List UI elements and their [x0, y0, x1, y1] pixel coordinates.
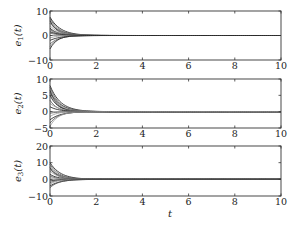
subplot-2: 0246810−50510e2(t)	[12, 74, 287, 140]
subplot-1: 0246810−10010e1(t)	[12, 6, 287, 72]
x-tick-label: 10	[275, 196, 287, 207]
trajectory-line	[50, 171, 281, 179]
trajectory-line	[50, 28, 281, 35]
trajectories	[50, 163, 281, 188]
trajectory-line	[50, 169, 281, 179]
trajectory-line	[50, 26, 281, 36]
trajectory-line	[50, 36, 281, 41]
y-tick-label: 0	[42, 30, 48, 41]
x-tick-label: 6	[186, 128, 192, 139]
x-tick-label: 10	[275, 60, 287, 71]
trajectory-line	[50, 89, 281, 112]
trajectory-line	[50, 112, 281, 120]
axes-frame	[50, 79, 281, 128]
trajectory-line	[50, 95, 281, 111]
trajectory-line	[50, 21, 281, 36]
x-tick-label: 10	[275, 128, 287, 139]
trajectory-line	[50, 36, 281, 45]
trajectory-line	[50, 90, 281, 111]
trajectory-line	[50, 163, 281, 180]
x-tick-label: 2	[93, 60, 99, 71]
x-tick-label: 6	[186, 60, 192, 71]
y-tick-label: 20	[36, 141, 48, 152]
trajectory-line	[50, 179, 281, 187]
trajectory-line	[50, 179, 281, 184]
y-tick-label: −10	[28, 55, 48, 66]
y-tick-label: 10	[36, 74, 48, 85]
y-tick-label: 10	[36, 157, 48, 168]
y-axis-label: e1(t)	[12, 24, 25, 46]
trajectory-line	[50, 86, 281, 112]
x-tick-label: 8	[232, 128, 238, 139]
trajectory-line	[50, 179, 281, 186]
axes-frame	[50, 146, 281, 196]
x-tick-label: 4	[139, 128, 145, 139]
trajectory-line	[50, 23, 281, 35]
trajectory-line	[50, 168, 281, 180]
trajectory-line	[50, 17, 281, 35]
y-tick-label: −5	[34, 123, 48, 134]
trajectory-line	[50, 36, 281, 49]
trajectory-line	[50, 164, 281, 179]
x-tick-label: 8	[232, 196, 238, 207]
trajectory-line	[50, 112, 281, 127]
y-axis-label: e3(t)	[12, 160, 25, 182]
trajectory-line	[50, 18, 281, 35]
trajectories	[50, 86, 281, 127]
trajectory-line	[50, 112, 281, 117]
y-tick-label: 0	[42, 174, 48, 185]
x-tick-label: 8	[232, 60, 238, 71]
y-tick-label: 5	[42, 90, 48, 101]
chart-figure: 0246810−10010e1(t)0246810−50510e2(t)0246…	[0, 0, 292, 226]
y-tick-label: −10	[28, 191, 48, 202]
y-tick-label: 10	[36, 6, 48, 17]
x-tick-label: 4	[139, 60, 145, 71]
trajectory-line	[50, 87, 281, 112]
x-tick-label: 6	[186, 196, 192, 207]
trajectory-line	[50, 92, 281, 112]
trajectory-line	[50, 100, 281, 111]
trajectory-line	[50, 112, 281, 123]
y-axis-label: e2(t)	[12, 92, 25, 114]
x-axis-label: t	[168, 208, 173, 219]
y-tick-label: 0	[42, 106, 48, 117]
trajectory-line	[50, 36, 281, 47]
trajectories	[50, 17, 281, 49]
x-tick-label: 4	[139, 196, 145, 207]
subplot-3: 0246810−1001020e3(t)	[12, 141, 287, 208]
trajectory-line	[50, 166, 281, 179]
x-tick-label: 2	[93, 128, 99, 139]
x-tick-label: 2	[93, 196, 99, 207]
trajectory-line	[50, 20, 281, 36]
trajectory-line	[50, 94, 281, 112]
